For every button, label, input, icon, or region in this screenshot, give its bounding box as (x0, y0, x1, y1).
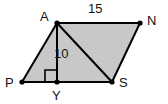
vertex-dot-S (109, 79, 114, 84)
parallelogram-diagram-svg (0, 0, 168, 104)
side-length-label-an: 15 (88, 2, 102, 15)
vertex-dot-P (19, 79, 24, 84)
vertex-dot-N (137, 20, 142, 25)
height-length-label-ay: 10 (54, 47, 68, 60)
vertex-label-p: P (5, 76, 14, 89)
vertex-label-s: S (119, 76, 128, 89)
geometry-figure: A N P S Y 15 10 (0, 0, 168, 104)
vertex-dot-A (54, 20, 59, 25)
vertex-dot-Y (54, 79, 59, 84)
vertex-label-n: N (147, 14, 156, 27)
vertex-label-a: A (40, 10, 49, 23)
vertex-label-y: Y (52, 89, 61, 102)
